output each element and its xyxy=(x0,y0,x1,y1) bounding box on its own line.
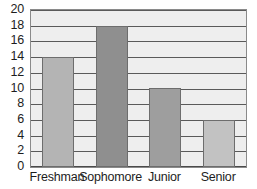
x-tick-label: Freshman xyxy=(30,170,85,184)
y-axis: 02468101214161820 xyxy=(0,0,27,189)
y-tick-label: 20 xyxy=(10,2,24,16)
bar-chart: 02468101214161820 FreshmanSophomoreJunio… xyxy=(0,0,257,189)
bar xyxy=(96,26,128,167)
x-axis: FreshmanSophomoreJuniorSenior xyxy=(30,170,247,189)
y-tick-label: 4 xyxy=(17,128,24,142)
y-tick-label: 12 xyxy=(10,65,24,79)
plot-area xyxy=(30,9,247,168)
x-tick-label: Junior xyxy=(148,170,181,184)
y-tick-label: 18 xyxy=(10,18,24,32)
x-tick-label: Sophomore xyxy=(79,170,142,184)
bar xyxy=(149,88,181,167)
y-tick-label: 16 xyxy=(10,33,24,47)
y-tick-label: 10 xyxy=(10,81,24,95)
bars xyxy=(31,10,246,167)
y-tick-label: 8 xyxy=(17,96,24,110)
y-tick-label: 6 xyxy=(17,112,24,126)
bar xyxy=(42,57,74,167)
y-tick-label: 0 xyxy=(17,159,24,173)
y-tick-label: 2 xyxy=(17,143,24,157)
bar xyxy=(203,120,235,167)
y-tick-label: 14 xyxy=(10,49,24,63)
x-tick-label: Senior xyxy=(201,170,236,184)
